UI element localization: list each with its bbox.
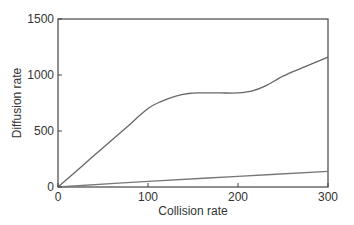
series-layer [58,57,328,187]
y-axis-label: Diffusion rate [10,67,24,138]
y-axis-ticks: 050010001500 [27,12,62,194]
x-tick-label: 200 [228,190,248,204]
y-tick-label: 500 [34,124,54,138]
plot-area [58,19,328,187]
x-axis-ticks: 0100200300 [55,183,339,204]
series-line-2 [58,171,328,187]
x-tick-label: 0 [55,190,62,204]
y-tick-label: 0 [47,180,54,194]
x-axis-label: Collision rate [158,204,228,218]
y-tick-label: 1000 [27,68,54,82]
y-tick-label: 1500 [27,12,54,26]
x-tick-label: 300 [318,190,338,204]
axes-frame [58,19,328,187]
line-chart: 0100200300 050010001500 Collision rate D… [0,0,354,225]
series-line-1 [58,57,328,187]
x-tick-label: 100 [138,190,158,204]
